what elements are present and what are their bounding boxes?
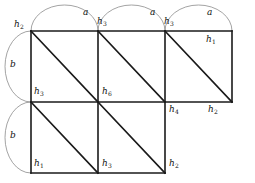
vertex-label-h3-mid-left: h3 [34, 87, 44, 97]
arc-b-2 [5, 102, 31, 173]
arc-group-left [5, 31, 31, 173]
arc-b-1 [5, 31, 31, 102]
arc-label-b-1: b [10, 60, 16, 69]
arc-a-3 [165, 5, 232, 31]
vertex-label-h2-mid-far-right: h2 [208, 105, 218, 115]
arc-label-b-2: b [10, 131, 16, 140]
vertex-label-h1-top-right: h1 [206, 35, 216, 45]
diagonal-r1c3 [165, 31, 232, 102]
vertex-label-h3-bottom-mid: h3 [102, 159, 112, 169]
vertex-label-h2-top-left: h2 [14, 20, 24, 30]
vertex-label-h4-mid-right: h4 [169, 105, 179, 115]
arc-label-a-1: a [83, 8, 88, 17]
vertex-label-h2-bottom-right: h2 [169, 159, 179, 169]
vertex-label-h6-center: h6 [102, 87, 112, 97]
vertex-label-h3-top-mid1: h3 [97, 17, 107, 27]
arc-label-a-2: a [150, 8, 155, 17]
figure-canvas: a a a b b h2 h3 h3 h1 h3 h6 h4 h2 h1 h3 … [0, 0, 255, 183]
arc-label-a-3: a [207, 8, 212, 17]
grid-lines [31, 31, 232, 173]
vertex-label-h3-top-mid2: h3 [164, 17, 174, 27]
arc-group-top [31, 5, 232, 31]
vertex-label-h1-bottom-left: h1 [34, 159, 44, 169]
